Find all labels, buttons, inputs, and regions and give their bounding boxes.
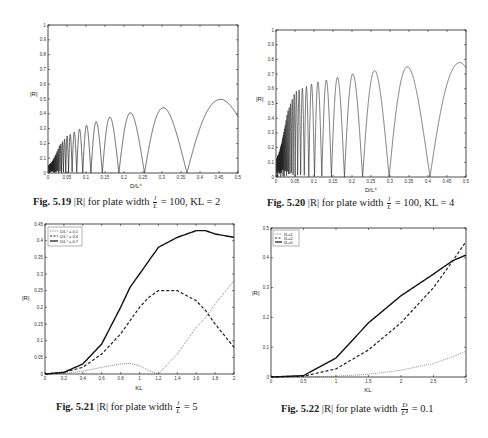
x-tick-label: 1	[335, 379, 338, 384]
x-tick-label: 2	[400, 379, 403, 384]
series-line-solid	[271, 255, 466, 377]
series-line-dotted	[271, 351, 466, 377]
series-line-dashed	[271, 242, 466, 377]
x-tick-label: 2.5	[430, 379, 437, 384]
x-tick-label: 0.5	[300, 379, 307, 384]
x-tick-label: 1.5	[365, 379, 372, 384]
x-ticks: 00.511.522.53	[270, 228, 468, 384]
x-axis-label: KL	[364, 387, 372, 393]
legend-entry: l/L=5	[284, 240, 294, 245]
figure-caption: Fig. 5.22 |R| for plate width DL⁴ = 0.1	[281, 402, 433, 417]
x-tick-label: 0	[270, 379, 273, 384]
legend: l/L=1 l/L=2 l/L=5	[273, 230, 299, 246]
figure-5-22: 00.10.20.30.40.5 00.511.522.53 l/L=1 l/L…	[0, 0, 488, 438]
y-tick-label: 0.2	[263, 315, 270, 320]
y-tick-label: 0.5	[263, 226, 270, 231]
y-axis-label: |R|	[252, 290, 260, 296]
x-tick-label: 3	[465, 379, 468, 384]
y-tick-label: 0.3	[263, 285, 270, 290]
chart-5-22: 00.10.20.30.40.5 00.511.522.53 l/L=1 l/L…	[0, 0, 488, 438]
y-tick-label: 0.1	[263, 345, 270, 350]
y-tick-label: 0.4	[263, 255, 270, 260]
y-ticks: 00.10.20.30.40.5	[263, 226, 466, 380]
